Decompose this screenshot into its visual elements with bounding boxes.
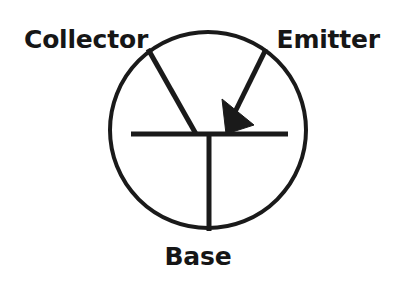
base-label: Base: [0, 244, 396, 269]
transistor-figure: Collector Emitter Base: [0, 0, 396, 290]
emitter-label: Emitter: [277, 27, 380, 52]
collector-label: Collector: [24, 27, 148, 52]
